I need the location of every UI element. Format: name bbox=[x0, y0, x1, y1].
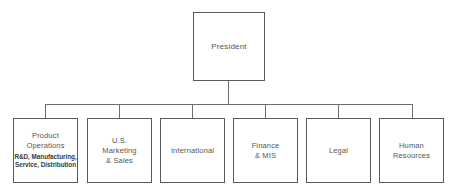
node-department-international-label: International bbox=[171, 146, 214, 156]
connector-drop-5 bbox=[338, 104, 339, 118]
connector-horizontal-bus bbox=[45, 104, 413, 105]
node-department-human-resources[interactable]: Human Resources bbox=[379, 118, 444, 183]
connector-root-stem bbox=[228, 81, 229, 104]
node-department-product-operations-sublabel: R&D, Manufacturing, Service, Distributio… bbox=[14, 153, 76, 170]
node-president-label: President bbox=[211, 42, 247, 52]
node-department-finance-mis[interactable]: Finance & MIS bbox=[233, 118, 298, 183]
connector-drop-1 bbox=[45, 104, 46, 118]
org-chart: President Product Operations R&D, Manufa… bbox=[0, 0, 456, 196]
connector-drop-2 bbox=[119, 104, 120, 118]
connector-drop-3 bbox=[192, 104, 193, 118]
node-president[interactable]: President bbox=[193, 12, 265, 81]
node-department-product-operations-label: Product Operations bbox=[26, 131, 64, 151]
node-department-us-marketing-sales[interactable]: U.S. Marketing & Sales bbox=[87, 118, 152, 183]
node-department-legal-label: Legal bbox=[329, 146, 348, 156]
node-department-us-marketing-sales-label: U.S. Marketing & Sales bbox=[102, 136, 136, 166]
node-department-human-resources-label: Human Resources bbox=[393, 141, 430, 161]
node-department-legal[interactable]: Legal bbox=[306, 118, 371, 183]
node-department-product-operations[interactable]: Product Operations R&D, Manufacturing, S… bbox=[13, 118, 78, 183]
node-department-finance-mis-label: Finance & MIS bbox=[252, 141, 280, 161]
connector-drop-6 bbox=[412, 104, 413, 118]
connector-drop-4 bbox=[265, 104, 266, 118]
node-department-international[interactable]: International bbox=[160, 118, 225, 183]
